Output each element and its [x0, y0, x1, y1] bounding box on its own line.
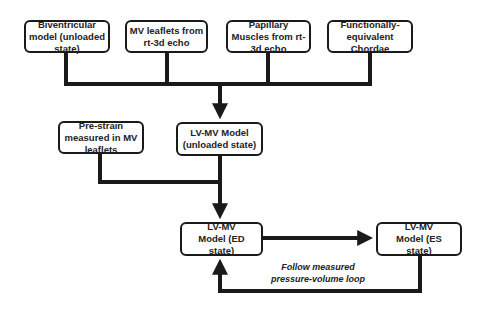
box-label: Functionally-equivalent Chordae — [331, 19, 409, 55]
box-biventricular-model: Biventricular model (unloaded state) — [24, 20, 110, 53]
box-label: Papillary Muscles from rt-3d echo — [230, 19, 307, 55]
box-prestrain: Pre-strain measured in MV leaflets — [58, 121, 144, 154]
box-lvmv-es: LV-MV Model (ES state) — [376, 222, 462, 256]
box-lvmv-ed: LV-MV Model (ED state) — [180, 222, 263, 256]
edge-prestrain — [100, 153, 220, 182]
box-label: LV-MV Model (unloaded state) — [180, 127, 259, 151]
box-mv-leaflets: MV leaflets from rt-3d echo — [125, 20, 208, 53]
box-chordae: Functionally-equivalent Chordae — [327, 20, 413, 53]
box-papillary-muscles: Papillary Muscles from rt-3d echo — [226, 20, 311, 53]
box-label: MV leaflets from rt-3d echo — [129, 25, 204, 49]
loop-label: Follow measured pressure-volume loop — [262, 261, 374, 285]
box-label: Biventricular model (unloaded state) — [28, 19, 106, 55]
box-label: LV-MV Model (ES state) — [392, 221, 446, 257]
box-label: Pre-strain measured in MV leaflets — [62, 120, 140, 156]
box-label: LV-MV Model (ED state) — [196, 221, 247, 257]
box-lvmv-unloaded: LV-MV Model (unloaded state) — [176, 122, 263, 156]
